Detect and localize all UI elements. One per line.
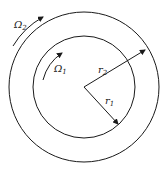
r1-label: r1	[105, 95, 114, 108]
concentric-cylinders-diagram: Ω2 Ω1 r2 r1	[0, 0, 166, 169]
r2-label: r2	[98, 64, 108, 77]
omega1-label: Ω1	[53, 63, 67, 76]
radius-r2-arrow	[84, 50, 145, 87]
omega2-label: Ω2	[13, 19, 27, 32]
